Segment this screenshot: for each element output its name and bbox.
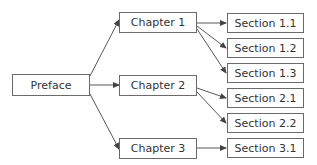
node-section-1-1: Section 1.1 [227, 13, 304, 33]
edge-preface-ch3 [90, 94, 119, 149]
node-chapter-3: Chapter 3 [119, 138, 197, 159]
node-section-2-2: Section 2.2 [227, 113, 304, 133]
node-chapter-2: Chapter 2 [119, 75, 197, 96]
edge-ch1-s12 [197, 26, 226, 48]
node-preface: Preface [12, 74, 90, 96]
node-chapter-1: Chapter 1 [119, 12, 197, 33]
edge-ch1-s13 [197, 29, 226, 73]
edge-preface-ch1 [90, 20, 119, 76]
node-section-1-2: Section 1.2 [227, 38, 304, 58]
node-section-1-3: Section 1.3 [227, 63, 304, 83]
node-section-3-1: Section 3.1 [227, 138, 304, 158]
node-section-2-1: Section 2.1 [227, 88, 304, 108]
